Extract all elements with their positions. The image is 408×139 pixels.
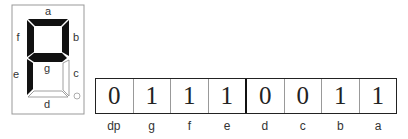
- bit-label-c: c: [284, 119, 322, 135]
- segment-c: [63, 60, 69, 96]
- segment-label-a: a: [45, 5, 52, 17]
- segment-label-b: b: [73, 31, 79, 43]
- segment-label-c: c: [73, 67, 79, 79]
- bit-label-dp: dp: [95, 119, 133, 135]
- bit-cell-dp: 0: [96, 79, 134, 113]
- segment-g: [28, 53, 67, 62]
- bit-label-b: b: [322, 119, 360, 135]
- segment-d: [28, 91, 68, 97]
- bit-cell-f: 1: [171, 79, 209, 113]
- segment-dp: [74, 93, 80, 99]
- bit-cell-c: 0: [285, 79, 323, 113]
- bit-label-f: f: [171, 119, 209, 135]
- segment-label-d: d: [44, 98, 50, 110]
- bit-label-d: d: [246, 119, 284, 135]
- segment-e: [27, 59, 33, 95]
- bit-label-g: g: [133, 119, 171, 135]
- segment-label-g: g: [44, 62, 50, 74]
- bit-cell-g: 1: [134, 79, 172, 113]
- bit-cell-a: 1: [360, 79, 397, 113]
- bit-labels: dp g f e d c b a: [95, 119, 397, 135]
- bit-label-e: e: [208, 119, 246, 135]
- bit-cell-d: 0: [247, 79, 285, 113]
- bit-table: 0 1 1 1 0 0 1 1: [95, 78, 397, 114]
- segment-label-e: e: [13, 68, 19, 80]
- bit-label-a: a: [359, 119, 397, 135]
- segment-a: [28, 19, 68, 26]
- seven-segment-display: a b f g c e d: [0, 0, 100, 139]
- bit-cell-b: 1: [322, 79, 360, 113]
- bit-cell-e: 1: [209, 79, 248, 113]
- seven-segment-diagram: a b f g c e d: [0, 0, 100, 139]
